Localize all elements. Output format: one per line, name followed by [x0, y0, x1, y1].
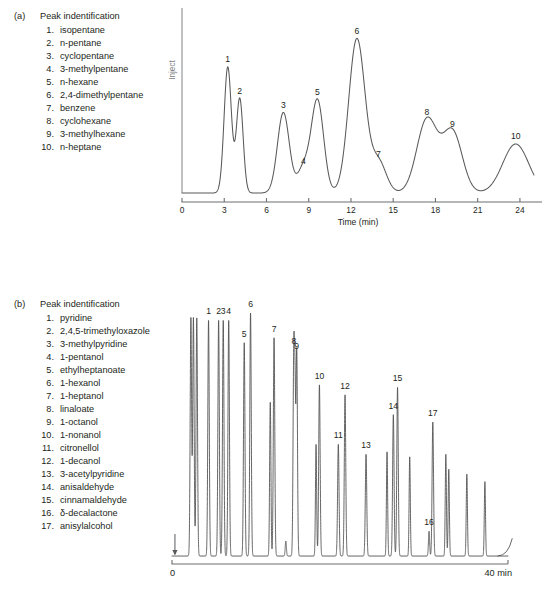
baseline-drift	[498, 539, 512, 556]
legend-item-number: 4.	[14, 63, 54, 76]
peak-label: 6	[248, 299, 253, 309]
legend-item: 15.cinnamaldehyde	[14, 494, 150, 507]
legend-item: 17.anisylalcohol	[14, 520, 150, 533]
x-axis-tick-label: 6	[264, 205, 269, 215]
peak-label: 7	[376, 149, 381, 159]
legend-item-number: 2.	[14, 37, 54, 50]
panel-b-letter: (b)	[14, 298, 25, 311]
legend-item-name: 3-acetylpyridine	[60, 469, 124, 479]
legend-item: 1.pyridine	[14, 312, 150, 325]
legend-item: 2.2,4,5-trimethyloxazole	[14, 325, 150, 338]
legend-item-name: 3-methylpyridine	[60, 339, 127, 349]
legend-item: 7.1-heptanol	[14, 390, 150, 403]
x-axis-title: Time (min)	[338, 217, 379, 227]
legend-item-number: 6.	[14, 89, 54, 102]
legend-item-number: 16.	[14, 507, 54, 520]
legend-item-number: 1.	[14, 24, 54, 37]
panel-b-legend: (b) Peak indentification 1.pyridine2.2,4…	[14, 298, 150, 533]
legend-item-name: cyclopentane	[60, 51, 114, 61]
legend-item-name: 3-methylhexane	[60, 129, 125, 139]
peak-label: 4	[301, 156, 306, 166]
legend-item: 11.citronellol	[14, 442, 150, 455]
legend-item-number: 9.	[14, 128, 54, 141]
legend-item: 4.1-pentanol	[14, 351, 150, 364]
x-axis-tick-label: 21	[473, 205, 483, 215]
x-axis-tick-label: 18	[431, 205, 441, 215]
peak-label: 14	[389, 401, 399, 411]
peak-label: 12	[340, 381, 350, 391]
legend-item-name: citronellol	[60, 443, 99, 453]
legend-item-name: linaloate	[60, 404, 94, 414]
legend-item-number: 3.	[14, 50, 54, 63]
legend-item-name: 3-methylpentane	[60, 64, 128, 74]
legend-item: 13.3-acetylpyridine	[14, 468, 150, 481]
x-axis-tick-label: 0	[170, 568, 175, 578]
chromatogram-b-chart: 040 min1234567891011121314151617	[158, 300, 558, 600]
legend-item-name: 1-nonanol	[60, 430, 101, 440]
panel-a-legend-header: (a) Peak indentification	[14, 10, 143, 23]
legend-item-name: isopentane	[60, 25, 105, 35]
x-axis-tick-label: 40 min	[484, 568, 512, 578]
legend-item-name: n-pentane	[60, 38, 101, 48]
legend-item-number: 10.	[14, 429, 54, 442]
legend-item-number: 12.	[14, 455, 54, 468]
panel-a-legend: (a) Peak indentification 1.isopentane2.n…	[14, 10, 143, 154]
legend-item-number: 2.	[14, 325, 54, 338]
x-axis-tick-label: 15	[389, 205, 399, 215]
legend-item-number: 13.	[14, 468, 54, 481]
legend-item: 10.n-heptane	[14, 141, 143, 154]
x-axis-tick-label: 9	[306, 205, 311, 215]
legend-item-name: ethylheptanoate	[60, 365, 125, 375]
chromatogram-a-svg: 03691215182124Time (min)Inject1234567891…	[172, 8, 554, 252]
legend-item-number: 11.	[14, 442, 54, 455]
inject-label: Inject	[168, 59, 177, 79]
legend-item-number: 1.	[14, 312, 54, 325]
legend-item-number: 17.	[14, 520, 54, 533]
legend-item-name: 2,4-dimethylpentane	[60, 90, 143, 100]
legend-item-number: 5.	[14, 364, 54, 377]
peak-label: 3	[281, 100, 286, 110]
panel-b-legend-title: Peak indentification	[40, 299, 120, 309]
peak-label: 8	[425, 107, 430, 117]
legend-item-name: benzene	[60, 103, 95, 113]
legend-item-name: 1-decanol	[60, 456, 100, 466]
inject-arrow-head	[172, 550, 177, 556]
peak-label: 2	[237, 86, 242, 96]
legend-item-number: 7.	[14, 102, 54, 115]
legend-item-number: 4.	[14, 351, 54, 364]
x-axis-tick-label: 0	[180, 205, 185, 215]
legend-item-name: cyclohexane	[60, 116, 111, 126]
legend-item: 3.cyclopentane	[14, 50, 143, 63]
legend-item-number: 10.	[14, 141, 54, 154]
legend-item: 8.cyclohexane	[14, 115, 143, 128]
legend-item: 2.n-pentane	[14, 37, 143, 50]
legend-item: 4.3-methylpentane	[14, 63, 143, 76]
peak-label: 7	[272, 324, 277, 334]
x-axis-tick-label: 12	[346, 205, 356, 215]
peak-label: 5	[242, 329, 247, 339]
legend-item-name: 1-pentanol	[60, 352, 103, 362]
legend-item: 10.1-nonanol	[14, 429, 150, 442]
panel-b-legend-header: (b) Peak indentification	[14, 298, 150, 311]
legend-item: 14.anisaldehyde	[14, 481, 150, 494]
panel-a: (a) Peak indentification 1.isopentane2.n…	[0, 0, 560, 265]
peak-label: 13	[361, 440, 371, 450]
panel-b: (b) Peak indentification 1.pyridine2.2,4…	[0, 292, 560, 615]
legend-item: 3.3-methylpyridine	[14, 338, 150, 351]
legend-item-name: 1-heptanol	[60, 391, 103, 401]
legend-item-number: 14.	[14, 481, 54, 494]
panel-a-peak-list: 1.isopentane2.n-pentane3.cyclopentane4.3…	[14, 24, 143, 154]
legend-item-name: δ-decalactone	[60, 508, 118, 518]
x-axis-tick-label: 24	[515, 205, 525, 215]
legend-item-number: 5.	[14, 76, 54, 89]
legend-item-name: anisylalcohol	[60, 521, 113, 531]
peak-label: 10	[511, 131, 521, 141]
peak-label: 3	[221, 306, 226, 316]
peak-label: 16	[424, 517, 434, 527]
legend-item: 6.2,4-dimethylpentane	[14, 89, 143, 102]
legend-item-name: anisaldehyde	[60, 482, 114, 492]
peak-label: 11	[334, 430, 343, 440]
panel-b-peak-list: 1.pyridine2.2,4,5-trimethyloxazole3.3-me…	[14, 312, 150, 533]
legend-item-number: 8.	[14, 403, 54, 416]
legend-item-name: pyridine	[60, 313, 92, 323]
